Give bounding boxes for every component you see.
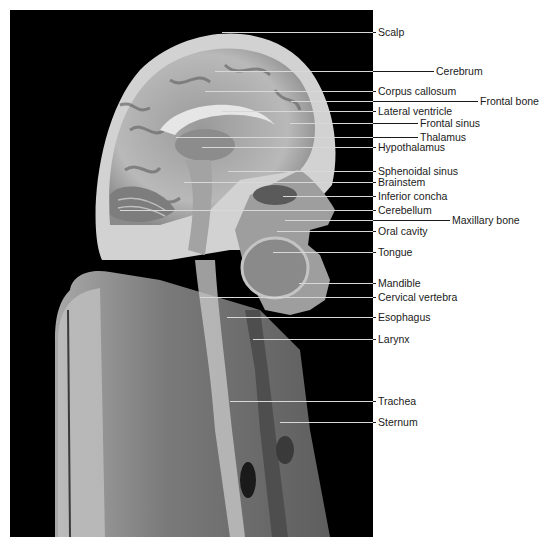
label-brainstem: Brainstem bbox=[378, 176, 425, 188]
leader-line-ext-inferior-concha bbox=[373, 196, 376, 197]
anatomy-figure: ScalpCerebrumCorpus callosumFrontal bone… bbox=[0, 0, 552, 546]
label-mandible: Mandible bbox=[378, 277, 421, 289]
leader-line-oral-cavity bbox=[277, 231, 373, 232]
label-tongue: Tongue bbox=[378, 246, 412, 258]
head-neck-section-illustration bbox=[10, 10, 373, 537]
leader-line-maxillary-bone bbox=[285, 220, 373, 221]
leader-line-mandible bbox=[299, 283, 373, 284]
leader-line-frontal-bone bbox=[291, 101, 373, 102]
leader-line-ext-hypothalamus bbox=[373, 147, 376, 148]
leader-line-scalp bbox=[222, 32, 373, 33]
leader-line-ext-cerebellum bbox=[373, 210, 376, 211]
label-cerebellum: Cerebellum bbox=[378, 204, 432, 216]
leader-line-ext-sternum bbox=[373, 422, 376, 423]
label-hypothalamus: Hypothalamus bbox=[378, 141, 445, 153]
leader-line-ext-frontal-sinus bbox=[373, 123, 418, 124]
leader-line-ext-brainstem bbox=[373, 182, 376, 183]
leader-line-ext-oral-cavity bbox=[373, 231, 376, 232]
label-cerebrum: Cerebrum bbox=[436, 65, 483, 77]
leader-line-trachea bbox=[230, 401, 373, 402]
label-maxillary-bone: Maxillary bone bbox=[452, 214, 520, 226]
leader-line-cerebrum bbox=[215, 71, 373, 72]
label-oral-cavity: Oral cavity bbox=[378, 225, 428, 237]
leader-line-sphenoidal-sinus bbox=[228, 171, 373, 172]
label-corpus-callosum: Corpus callosum bbox=[378, 85, 456, 97]
label-lateral-ventricle: Lateral ventricle bbox=[378, 105, 452, 117]
label-frontal-sinus: Frontal sinus bbox=[420, 117, 480, 129]
leader-line-ext-tongue bbox=[373, 252, 376, 253]
leader-line-ext-maxillary-bone bbox=[373, 220, 450, 221]
leader-line-ext-trachea bbox=[373, 401, 376, 402]
leader-line-ext-mandible bbox=[373, 283, 376, 284]
label-inferior-concha: Inferior concha bbox=[378, 190, 447, 202]
leader-line-esophagus bbox=[227, 317, 373, 318]
leader-line-ext-esophagus bbox=[373, 317, 376, 318]
label-frontal-bone: Frontal bone bbox=[480, 95, 539, 107]
label-scalp: Scalp bbox=[378, 26, 404, 38]
leader-line-ext-cerebrum bbox=[373, 71, 434, 72]
leader-line-tongue bbox=[273, 252, 373, 253]
leader-line-ext-thalamus bbox=[373, 137, 418, 138]
leader-line-ext-larynx bbox=[373, 339, 376, 340]
leader-line-cervical-vertebra bbox=[200, 297, 373, 298]
leader-line-larynx bbox=[253, 339, 373, 340]
label-sternum: Sternum bbox=[378, 416, 418, 428]
leader-line-cerebellum bbox=[120, 210, 373, 211]
leader-line-ext-cervical-vertebra bbox=[373, 297, 376, 298]
leader-line-sternum bbox=[280, 422, 373, 423]
label-larynx: Larynx bbox=[378, 333, 410, 345]
leader-line-ext-frontal-bone bbox=[373, 101, 478, 102]
leader-line-corpus-callosum bbox=[205, 91, 373, 92]
label-cervical-vertebra: Cervical vertebra bbox=[378, 291, 457, 303]
leader-line-frontal-sinus bbox=[290, 123, 373, 124]
sagittal-section-photo bbox=[10, 10, 373, 537]
leader-line-brainstem bbox=[184, 182, 373, 183]
leader-line-ext-scalp bbox=[373, 32, 376, 33]
label-esophagus: Esophagus bbox=[378, 311, 431, 323]
label-trachea: Trachea bbox=[378, 395, 416, 407]
leader-line-inferior-concha bbox=[283, 196, 373, 197]
leader-line-ext-sphenoidal-sinus bbox=[373, 171, 376, 172]
leader-line-ext-corpus-callosum bbox=[373, 91, 376, 92]
leader-line-hypothalamus bbox=[202, 147, 373, 148]
leader-line-ext-lateral-ventricle bbox=[373, 111, 376, 112]
leader-line-thalamus bbox=[176, 137, 373, 138]
leader-line-lateral-ventricle bbox=[222, 111, 373, 112]
